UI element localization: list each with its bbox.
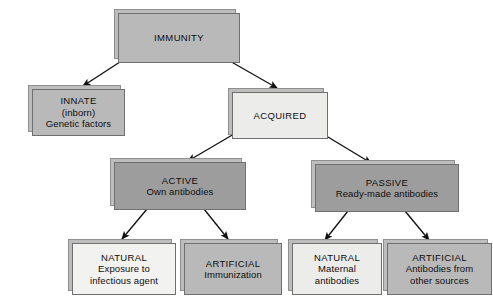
node-active-artificial[interactable]: ARTIFICIAL Immunization [184, 243, 282, 295]
node-active-artificial-line-0: ARTIFICIAL [206, 258, 261, 270]
node-acquired-line-0: ACQUIRED [254, 110, 307, 122]
node-active-natural-line-2: infectious agent [90, 275, 158, 287]
node-active-natural-line-0: NATURAL [101, 252, 147, 264]
edge-immunity-acquired [228, 60, 277, 88]
immunity-classification-diagram: IMMUNITY INNATE (inborn) Genetic factors… [0, 0, 493, 301]
node-passive-artificial-line-1: Antibodies from [406, 263, 474, 275]
node-acquired[interactable]: ACQUIRED [232, 92, 328, 139]
node-innate-line-0: INNATE [60, 95, 96, 107]
node-innate[interactable]: INNATE (inborn) Genetic factors [32, 89, 125, 136]
node-innate-line-2: Genetic factors [46, 118, 111, 130]
node-active-line-0: ACTIVE [162, 175, 198, 187]
node-active-natural[interactable]: NATURAL Exposure to infectious agent [72, 243, 176, 295]
node-immunity[interactable]: IMMUNITY [118, 13, 240, 63]
edge-passive-natural [325, 211, 348, 240]
edge-acquired-passive [323, 134, 371, 163]
node-passive-line-1: Ready-made antibodies [336, 188, 438, 200]
edge-immunity-innate [83, 60, 123, 86]
node-active-line-1: Own antibodies [147, 186, 214, 198]
node-active-artificial-line-1: Immunization [204, 269, 262, 281]
node-active-natural-line-1: Exposure to [98, 263, 150, 275]
node-passive-artificial-line-0: ARTIFICIAL [412, 252, 467, 264]
node-innate-line-1: (inborn) [62, 107, 96, 119]
node-passive-line-0: PASSIVE [366, 177, 408, 189]
node-passive[interactable]: PASSIVE Ready-made antibodies [315, 164, 459, 212]
node-passive-artificial-line-2: other sources [410, 275, 469, 287]
node-passive-natural-line-2: antibodies [315, 275, 359, 287]
node-passive-natural-line-1: Maternal [318, 263, 356, 275]
edge-acquired-active [188, 134, 234, 161]
node-immunity-line-0: IMMUNITY [154, 32, 204, 44]
edge-active-natural [122, 209, 147, 239]
node-passive-artificial[interactable]: ARTIFICIAL Antibodies from other sources [387, 243, 492, 295]
edge-passive-artificial [405, 211, 429, 240]
node-passive-natural-line-0: NATURAL [314, 252, 360, 264]
node-active[interactable]: ACTIVE Own antibodies [114, 162, 246, 210]
edge-active-artificial [204, 209, 228, 239]
node-passive-natural[interactable]: NATURAL Maternal antibodies [292, 243, 382, 295]
